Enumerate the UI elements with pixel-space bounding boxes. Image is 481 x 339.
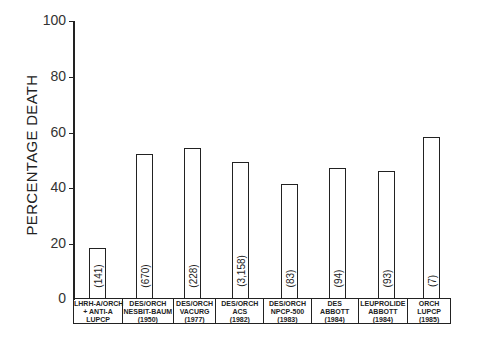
- category-label-line: DES/ORCH: [216, 300, 263, 308]
- y-tick: [69, 77, 73, 78]
- category-label-line: LEUPROLIDE: [359, 300, 408, 308]
- sample-size-label: (670): [139, 264, 150, 287]
- sample-size-label: (7): [426, 275, 437, 287]
- category-label-line: LHRH-A/ORCH: [74, 300, 122, 308]
- y-tick-label: 40: [26, 179, 66, 195]
- y-tick-label: 0: [26, 290, 66, 306]
- category-label-line: (1950): [123, 316, 173, 324]
- category-label-line: ABBOTT: [312, 308, 358, 316]
- category-label-line: (1984): [359, 316, 408, 324]
- bar: (3,158): [232, 162, 249, 298]
- category-label-line: (1984): [312, 316, 358, 324]
- y-tick-label: 60: [26, 124, 66, 140]
- sample-size-label: (83): [284, 270, 295, 288]
- sample-size-label: (228): [187, 264, 198, 287]
- category-label-line: + ANTI-A: [74, 308, 122, 316]
- y-tick: [69, 133, 73, 134]
- bar-chart: PERCENTAGE DEATH 100 80 60 40 20 0 (141)…: [0, 0, 481, 339]
- bar: (93): [378, 171, 395, 298]
- sample-size-label: (141): [92, 264, 103, 287]
- category-label-line: NPCP-500: [264, 308, 311, 316]
- sample-size-label: (93): [381, 270, 392, 288]
- category-label-line: ORCH: [408, 300, 450, 308]
- category-label-line: DES: [312, 300, 358, 308]
- category-label-line: ABBOTT: [359, 308, 408, 316]
- category-label-line: (1977): [174, 316, 216, 324]
- category-label-line: DES/ORCH: [174, 300, 216, 308]
- y-tick: [69, 21, 73, 22]
- bar: (83): [281, 184, 298, 298]
- category-label-line: (1982): [216, 316, 263, 324]
- sample-size-label: (94): [332, 270, 343, 288]
- category-label: LEUPROLIDEABBOTT(1984): [359, 299, 409, 323]
- category-label-line: (1983): [264, 316, 311, 324]
- category-label-line: DES/ORCH: [123, 300, 173, 308]
- bar: (141): [89, 248, 106, 298]
- bar: (7): [423, 137, 440, 298]
- y-tick-label: 20: [26, 235, 66, 251]
- bar: (670): [136, 154, 153, 298]
- category-label: DES/ORCHACS(1982): [216, 299, 264, 323]
- category-label: DES/ORCHNESBIT-BAUM(1950): [123, 299, 174, 323]
- bar: (228): [184, 148, 201, 298]
- y-tick-label: 80: [26, 68, 66, 84]
- category-label-line: DES/ORCH: [264, 300, 311, 308]
- category-label: DES/ORCHNPCP-500(1983): [264, 299, 312, 323]
- y-axis-line: [73, 21, 75, 300]
- y-tick-label: 100: [26, 12, 66, 28]
- category-label-line: (1985): [408, 316, 450, 324]
- category-label: DESABBOTT(1984): [312, 299, 359, 323]
- category-label: DES/ORCHVACURG(1977): [174, 299, 217, 323]
- bar: (94): [329, 168, 346, 298]
- category-label-line: NESBIT-BAUM: [123, 308, 173, 316]
- y-tick: [69, 188, 73, 189]
- y-axis-title: PERCENTAGE DEATH: [23, 75, 40, 236]
- category-label-line: LUPCP: [74, 316, 122, 324]
- category-label-box: LHRH-A/ORCH+ ANTI-ALUPCPDES/ORCHNESBIT-B…: [73, 298, 451, 324]
- category-label: ORCHLUPCP(1985): [408, 299, 450, 323]
- category-label-line: VACURG: [174, 308, 216, 316]
- category-label-line: ACS: [216, 308, 263, 316]
- category-label-line: LUPCP: [408, 308, 450, 316]
- y-tick: [69, 244, 73, 245]
- category-label: LHRH-A/ORCH+ ANTI-ALUPCP: [74, 299, 123, 323]
- sample-size-label: (3,158): [235, 255, 246, 287]
